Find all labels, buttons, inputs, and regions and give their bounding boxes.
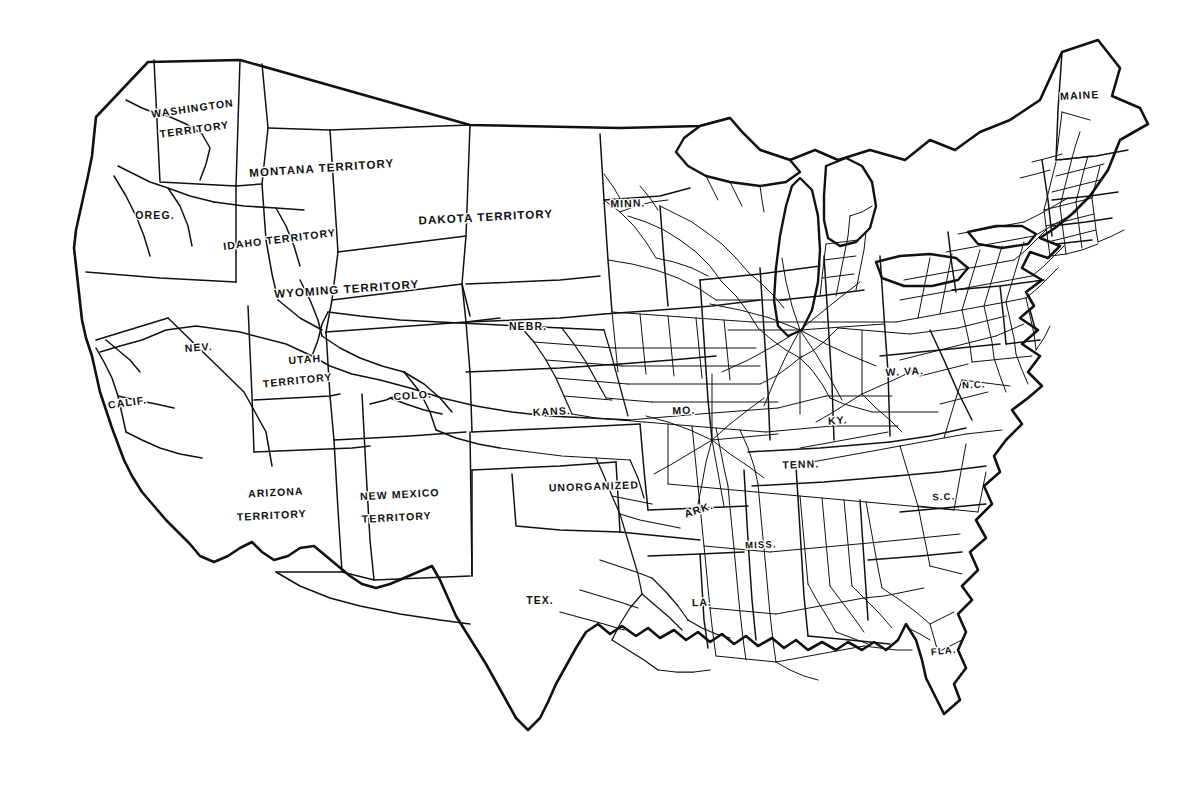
map-label-west-virginia: W. VA.: [885, 364, 924, 378]
map-label-south-carolina: S.C.: [932, 490, 955, 502]
railroad-map: WASHINGTONTERRITORYOREG.IDAHO TERRITORYM…: [0, 0, 1201, 799]
map-label-mississippi: MISS.: [745, 538, 777, 550]
map-label-texas: TEX.: [526, 594, 554, 606]
map-label-oregon: OREG.: [135, 209, 174, 221]
map-label-kentucky: KY.: [828, 413, 848, 426]
map-label-louisiana: LA.: [692, 596, 713, 609]
map-label-kansas: KANS.: [532, 404, 571, 418]
map-label-north-carolina: N.C.: [962, 378, 986, 390]
map-label-utah-territory: UTAH: [288, 352, 322, 366]
map-label-nevada: NEV.: [184, 340, 213, 354]
map-label-tennessee: TENN.: [782, 457, 819, 470]
map-canvas: WASHINGTONTERRITORYOREG.IDAHO TERRITORYM…: [0, 0, 1201, 799]
map-label-nebraska: NEBR.: [509, 320, 547, 332]
map-label-minnesota: MINN.: [610, 196, 646, 209]
map-label-maine: MAINE: [1060, 88, 1100, 102]
map-label-missouri: MO.: [672, 404, 696, 417]
